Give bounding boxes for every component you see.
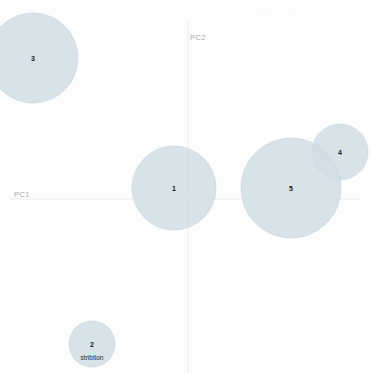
bubble-sublabel-2: stribtion — [81, 354, 104, 361]
bubble-label-4: 4 — [338, 149, 342, 156]
pca-bubble-chart: PC2 PC1 12stribtion345 ····· — [0, 0, 375, 373]
bubble-label-1: 1 — [172, 185, 176, 192]
top-artifact-2: ··· — [289, 7, 295, 13]
axis-label-pc1: PC1 — [14, 190, 30, 199]
top-artifact-1: ·· — [263, 8, 267, 14]
bubble-3[interactable] — [0, 13, 78, 103]
bubbles-group — [0, 13, 368, 367]
axis-label-pc2: PC2 — [190, 33, 206, 42]
bubble-label-3: 3 — [31, 55, 35, 62]
bubble-label-5: 5 — [289, 185, 293, 192]
plot-canvas — [0, 0, 375, 373]
bubble-label-2: 2 — [90, 341, 94, 348]
